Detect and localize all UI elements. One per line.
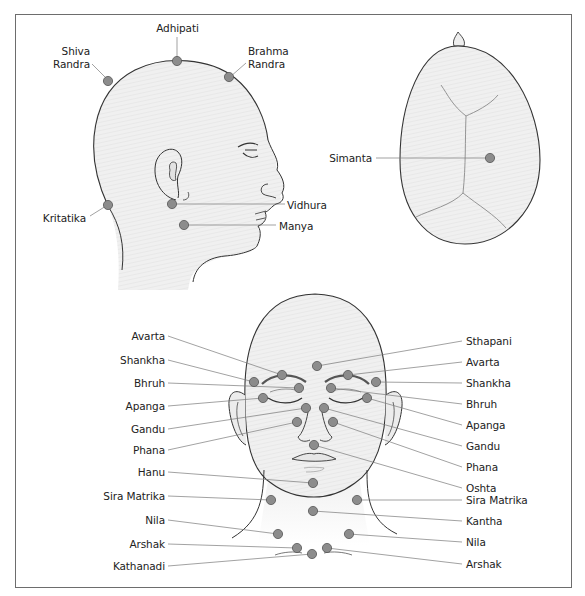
label-left-apanga: Apanga bbox=[80, 400, 165, 412]
label-right-phana: Phana bbox=[466, 461, 498, 473]
point-kritatika bbox=[103, 200, 112, 209]
point-sira-matrika-left bbox=[266, 495, 275, 504]
point-sira-matrika-right bbox=[352, 495, 361, 504]
point-phana-right bbox=[328, 417, 337, 426]
point-avarta-right bbox=[343, 370, 352, 379]
point-brahma-randra bbox=[224, 72, 233, 81]
point-simanta bbox=[485, 153, 494, 162]
point-avarta-left bbox=[277, 370, 286, 379]
label-right-oshta: Oshta bbox=[466, 482, 496, 494]
side-view-head bbox=[93, 61, 284, 290]
label-right-avarta: Avarta bbox=[466, 356, 499, 368]
label-brahma-randra-line1: Brahma bbox=[248, 45, 289, 57]
label-left-sira-matrika: Sira Matrika bbox=[60, 490, 165, 502]
point-arshak-right bbox=[322, 543, 331, 552]
front-view-head bbox=[229, 294, 402, 555]
label-shiva-randra-line2: Randra bbox=[40, 58, 90, 70]
label-right-shankha: Shankha bbox=[466, 377, 511, 389]
label-left-bhruh: Bhruh bbox=[80, 377, 165, 389]
point-nila-left bbox=[273, 529, 282, 538]
point-bhruh-right bbox=[326, 383, 335, 392]
point-shiva-randra bbox=[103, 76, 112, 85]
point-kantha bbox=[308, 506, 317, 515]
point-vidhura bbox=[167, 199, 176, 208]
point-apanga-right bbox=[362, 393, 371, 402]
point-sthapani bbox=[312, 361, 321, 370]
label-left-hanu: Hanu bbox=[80, 466, 165, 478]
label-kritatika: Kritatika bbox=[30, 212, 86, 224]
top-view-skull bbox=[400, 32, 540, 244]
point-gandu-left bbox=[301, 403, 310, 412]
label-manya: Manya bbox=[279, 220, 313, 232]
marma-diagram-art bbox=[0, 0, 585, 596]
label-left-shankha: Shankha bbox=[80, 354, 165, 366]
label-right-bhruh: Bhruh bbox=[466, 398, 497, 410]
label-right-sira-matrika: Sira Matrika bbox=[466, 494, 528, 506]
label-vidhura: Vidhura bbox=[287, 199, 327, 211]
label-right-arshak: Arshak bbox=[466, 558, 502, 570]
label-left-avarta: Avarta bbox=[80, 330, 165, 342]
point-shankha-left bbox=[249, 377, 258, 386]
label-left-arshak: Arshak bbox=[80, 538, 165, 550]
label-simanta: Simanta bbox=[320, 152, 372, 164]
point-arshak-left bbox=[292, 543, 301, 552]
point-gandu-right bbox=[319, 403, 328, 412]
point-adhipati bbox=[172, 56, 181, 65]
label-right-sthapani: Sthapani bbox=[466, 335, 512, 347]
point-kathanadi bbox=[307, 549, 316, 558]
label-left-kathanadi: Kathanadi bbox=[60, 560, 165, 572]
point-hanu bbox=[308, 478, 317, 487]
point-phana-left bbox=[292, 417, 301, 426]
label-right-gandu: Gandu bbox=[466, 440, 500, 452]
label-right-kantha: Kantha bbox=[466, 515, 502, 527]
label-adhipati: Adhipati bbox=[150, 22, 205, 34]
label-right-nila: Nila bbox=[466, 536, 486, 548]
label-left-phana: Phana bbox=[80, 444, 165, 456]
point-bhruh-left bbox=[294, 383, 303, 392]
point-manya bbox=[179, 220, 188, 229]
label-brahma-randra-line2: Randra bbox=[248, 58, 285, 70]
label-left-nila: Nila bbox=[80, 514, 165, 526]
label-right-apanga: Apanga bbox=[466, 419, 505, 431]
label-shiva-randra-line1: Shiva bbox=[40, 45, 90, 57]
point-shankha-right bbox=[371, 377, 380, 386]
point-nila-right bbox=[344, 529, 353, 538]
point-oshta bbox=[309, 440, 318, 449]
label-left-gandu: Gandu bbox=[80, 423, 165, 435]
point-apanga-left bbox=[258, 393, 267, 402]
